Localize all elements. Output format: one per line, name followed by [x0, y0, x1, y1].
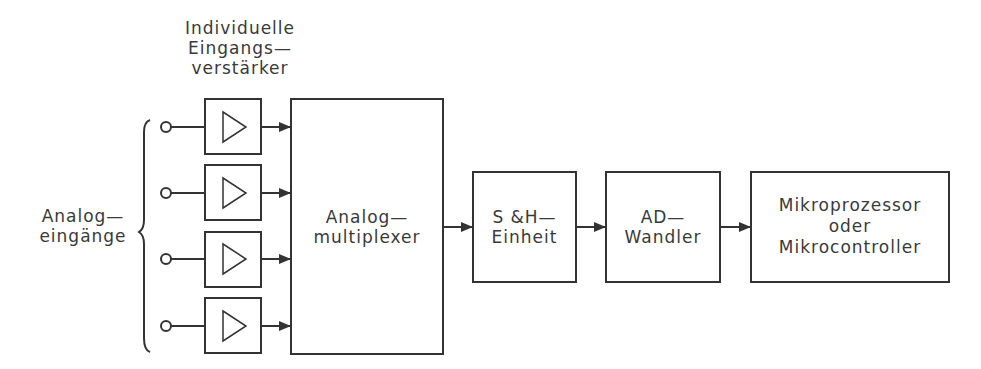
amplifier-box	[205, 232, 261, 287]
inputs-brace	[139, 120, 150, 352]
amplifier-triangle-icon	[223, 244, 246, 274]
analog-inputs-label: Analog— eingänge	[28, 206, 138, 246]
input-terminal-icon	[161, 321, 171, 331]
multiplexer-label: Analog— multiplexer	[291, 207, 443, 247]
amplifier-box	[205, 165, 261, 220]
input-terminal-icon	[161, 254, 171, 264]
block-diagram-canvas	[0, 0, 981, 369]
amplifier-triangle-icon	[223, 112, 246, 142]
input-channel-1	[161, 99, 291, 154]
input-channel-3	[161, 232, 291, 287]
amplifier-box	[205, 298, 261, 353]
amplifier-triangle-icon	[223, 178, 246, 208]
input-channel-4	[161, 298, 291, 353]
input-channel-2	[161, 165, 291, 220]
amplifiers-label: Individuelle Eingangs— verstärker	[185, 18, 295, 78]
amplifier-box	[205, 99, 261, 154]
microprocessor-label: Mikroprozessor oder Mikrocontroller	[751, 195, 949, 258]
adc-label: AD— Wandler	[606, 207, 720, 247]
sample-hold-label: S &H— Einheit	[473, 207, 576, 247]
input-terminal-icon	[161, 188, 171, 198]
input-terminal-icon	[161, 122, 171, 132]
amplifier-triangle-icon	[223, 311, 246, 341]
